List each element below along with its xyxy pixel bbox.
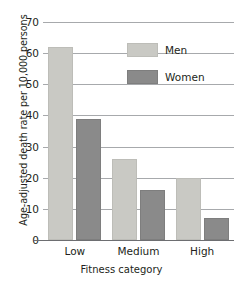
x-axis-tick-label-low: Low: [64, 246, 85, 257]
legend-label-men: Men: [165, 45, 187, 56]
x-axis-line: [34, 240, 234, 241]
bar-women-high: [204, 218, 229, 240]
y-axis-tick-label: 70: [26, 17, 39, 28]
legend: MenWomen: [127, 42, 223, 96]
legend-swatch-women: [127, 70, 158, 84]
y-axis-tick-label: 30: [26, 141, 39, 152]
x-axis-title: Fitness category: [0, 264, 243, 275]
bar-men-medium: [112, 159, 137, 240]
bar-women-low: [76, 119, 101, 240]
y-axis-tick-label: 40: [26, 110, 39, 121]
y-axis-tick-label: 10: [26, 204, 39, 215]
y-axis-tick-label: 50: [26, 79, 39, 90]
y-axis-tick-label: 20: [26, 172, 39, 183]
legend-swatch-men: [127, 43, 158, 57]
bar-women-medium: [140, 190, 165, 240]
x-axis-tick-label-medium: Medium: [118, 246, 160, 257]
legend-entry-men: Men: [127, 42, 223, 58]
bar-chart: Age-adjusted death rate per 10,000 perso…: [0, 0, 243, 288]
bar-men-high: [176, 178, 201, 240]
x-axis-tick-label-high: High: [190, 246, 214, 257]
bar-men-low: [48, 47, 73, 240]
legend-label-women: Women: [165, 72, 205, 83]
y-axis-tick-label: 60: [26, 48, 39, 59]
legend-entry-women: Women: [127, 69, 223, 85]
